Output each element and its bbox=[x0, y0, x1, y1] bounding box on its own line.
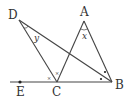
label-c: C bbox=[52, 85, 61, 99]
segment-ac bbox=[57, 21, 84, 82]
label-e: E bbox=[16, 85, 25, 99]
angle-mark-c-left: × bbox=[47, 75, 51, 81]
angle-arc-a bbox=[81, 29, 88, 30]
label-d: D bbox=[8, 8, 18, 22]
angle-label-y: y bbox=[33, 33, 40, 43]
angle-arc-d bbox=[24, 26, 28, 28]
point-e-dot bbox=[18, 80, 21, 83]
label-b: B bbox=[115, 78, 124, 92]
label-a: A bbox=[79, 5, 89, 19]
angle-mark-b-upper bbox=[104, 71, 106, 73]
angle-mark-b-lower bbox=[100, 78, 102, 80]
geometry-diagram: D A B C E x y × × bbox=[0, 0, 132, 101]
angle-label-x: x bbox=[82, 31, 87, 41]
segment-dc bbox=[19, 20, 57, 82]
angle-mark-c-right: × bbox=[55, 70, 59, 76]
